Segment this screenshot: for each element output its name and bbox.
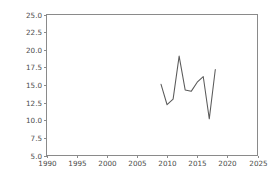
x-tick-label: 2010	[158, 159, 177, 168]
chart-figure: 5.07.510.012.515.017.520.022.525.0 19901…	[0, 0, 270, 175]
y-tick-label: 20.0	[26, 46, 42, 55]
x-tick-label: 2020	[218, 159, 237, 168]
y-tick-label: 10.0	[26, 116, 42, 125]
y-tick-label: 7.5	[31, 134, 42, 143]
x-axis-tick-labels: 19901995200020052010201520202025	[38, 159, 267, 168]
y-tick-label: 22.5	[26, 28, 42, 37]
y-tick-label: 25.0	[26, 11, 42, 20]
x-tick-label: 2025	[249, 159, 267, 168]
x-tick-label: 2005	[128, 159, 146, 168]
x-tick-label: 2000	[98, 159, 117, 168]
y-axis-tick-labels: 5.07.510.012.515.017.520.022.525.0	[26, 11, 42, 161]
x-tick-label: 1990	[38, 159, 57, 168]
x-tick-label: 2015	[188, 159, 206, 168]
x-tick-label: 1995	[68, 159, 86, 168]
line-chart: 5.07.510.012.515.017.520.022.525.0 19901…	[0, 0, 270, 175]
y-tick-label: 12.5	[26, 99, 42, 108]
y-tick-label: 15.0	[26, 81, 42, 90]
y-tick-label: 17.5	[26, 63, 42, 72]
plot-area-background	[46, 14, 258, 156]
